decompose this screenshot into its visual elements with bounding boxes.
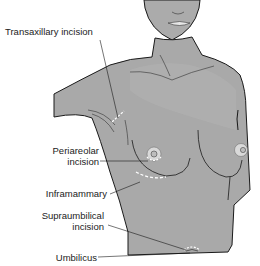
label-supraumbilical: Supraumbilical (42, 210, 104, 221)
torso-illustration (0, 0, 260, 266)
label-periareolar: Periareolar (53, 145, 99, 156)
nipple-left (151, 151, 157, 157)
label-transaxillary-incision: Transaxillary incision (5, 26, 93, 37)
label-inframammary: Inframammary (46, 188, 107, 199)
neck-head-shape (144, 0, 200, 40)
label-supraumbilical-incision: incision (72, 221, 104, 232)
label-periareolar-incision: incision (67, 156, 99, 167)
label-umbilicus: Umbilicus (56, 252, 97, 263)
nipple-right (240, 147, 245, 152)
